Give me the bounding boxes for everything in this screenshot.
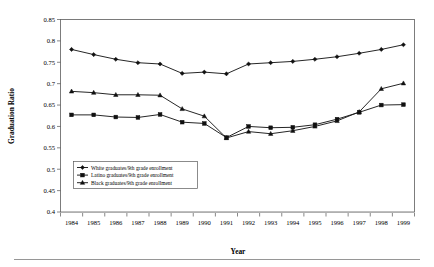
data-point-square xyxy=(92,113,96,117)
x-tick-label: 1993 xyxy=(264,219,278,226)
legend-items: White graduates/9th grade enrollmentLati… xyxy=(77,165,174,186)
data-point-square xyxy=(70,113,74,117)
y-tick-label: 0.8 xyxy=(47,37,56,44)
data-point-square xyxy=(114,115,118,119)
graduation-ratio-line-chart: 0.40.450.50.550.60.650.70.750.80.85 1984… xyxy=(0,0,434,267)
data-point-square xyxy=(202,122,206,126)
y-tick-label: 0.55 xyxy=(43,144,55,151)
y-axis-title: Graduation Ratio xyxy=(7,88,16,144)
y-tick-label: 0.45 xyxy=(43,187,55,194)
x-tick-label: 1985 xyxy=(87,219,101,226)
data-point-square xyxy=(81,173,85,177)
x-axis-title: Year xyxy=(231,247,246,256)
data-point-square xyxy=(269,126,273,130)
x-tick-label: 1984 xyxy=(65,219,79,226)
x-tick-label: 1990 xyxy=(198,219,212,226)
x-tick-label: 1998 xyxy=(375,219,389,226)
x-tick-label: 1989 xyxy=(176,219,190,226)
y-tick-label: 0.85 xyxy=(43,16,55,23)
y-tick-label: 0.75 xyxy=(43,59,55,66)
x-tick-label: 1996 xyxy=(330,219,344,226)
x-tick-label: 1987 xyxy=(131,219,145,226)
legend-label: White graduates/9th grade enrollment xyxy=(91,165,173,171)
legend-item-1: White graduates/9th grade enrollment xyxy=(77,165,173,171)
y-tick-label: 0.4 xyxy=(47,208,56,215)
chart-legend: White graduates/9th grade enrollmentLati… xyxy=(74,162,198,189)
x-tick-label: 1988 xyxy=(153,219,167,226)
y-tick-label: 0.7 xyxy=(47,80,56,87)
y-tick-label: 0.6 xyxy=(47,123,56,130)
x-tick-label: 1991 xyxy=(220,219,233,226)
data-point-square xyxy=(402,103,406,107)
legend-label: Latino graduates/9th grade enrollment xyxy=(91,172,174,178)
chart-figure: 0.40.450.50.550.60.650.70.750.80.85 1984… xyxy=(0,0,434,267)
y-tick-label: 0.5 xyxy=(47,166,56,173)
data-point-square xyxy=(136,116,140,120)
x-tick-label: 1997 xyxy=(353,219,367,226)
x-tick-label: 1992 xyxy=(242,219,255,226)
legend-label: Black graduates/9th grade enrollment xyxy=(91,180,172,186)
y-tick-label: 0.65 xyxy=(43,101,55,108)
data-point-square xyxy=(247,125,251,129)
data-point-square xyxy=(158,113,162,117)
x-tick-label: 1994 xyxy=(286,219,300,226)
x-tick-label: 1995 xyxy=(308,219,322,226)
x-tick-label: 1999 xyxy=(397,219,411,226)
data-point-square xyxy=(180,120,184,124)
x-tick-label: 1986 xyxy=(109,219,123,226)
legend-item-3: Black graduates/9th grade enrollment xyxy=(77,180,172,186)
legend-item-2: Latino graduates/9th grade enrollment xyxy=(77,172,174,178)
data-point-square xyxy=(379,103,383,107)
